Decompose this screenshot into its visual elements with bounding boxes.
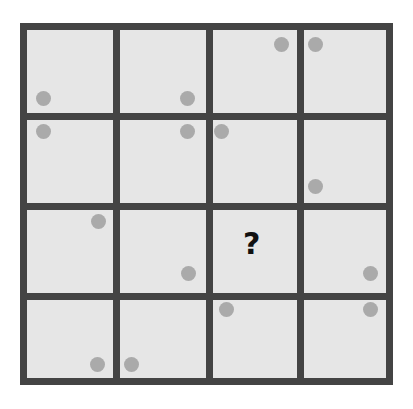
dot-icon <box>308 179 323 194</box>
cell-r0-c0[interactable] <box>27 30 113 113</box>
cell-r3-c2[interactable] <box>213 300 297 378</box>
dot-icon <box>36 91 51 106</box>
cell-r0-c3[interactable] <box>304 30 386 113</box>
cell-r3-c3[interactable] <box>304 300 386 378</box>
dot-icon <box>363 302 378 317</box>
cell-r0-c1[interactable] <box>120 30 206 113</box>
question-mark: ? <box>243 229 260 259</box>
dot-icon <box>90 357 105 372</box>
cell-r1-c0[interactable] <box>27 120 113 203</box>
cell-r2-c2-missing[interactable]: ? <box>213 210 297 293</box>
dot-icon <box>180 124 195 139</box>
dot-icon <box>219 302 234 317</box>
dot-icon <box>180 91 195 106</box>
cell-r1-c3[interactable] <box>304 120 386 203</box>
dot-icon <box>124 357 139 372</box>
dot-icon <box>214 124 229 139</box>
puzzle-grid: ? <box>20 23 393 385</box>
cell-r3-c1[interactable] <box>120 300 206 378</box>
cell-r2-c3[interactable] <box>304 210 386 293</box>
dot-icon <box>91 214 106 229</box>
cell-r3-c0[interactable] <box>27 300 113 378</box>
cell-r2-c0[interactable] <box>27 210 113 293</box>
dot-icon <box>274 37 289 52</box>
dot-icon <box>36 124 51 139</box>
dot-icon <box>181 266 196 281</box>
dot-icon <box>308 37 323 52</box>
dot-icon <box>363 266 378 281</box>
cell-r0-c2[interactable] <box>213 30 297 113</box>
cell-r1-c1[interactable] <box>120 120 206 203</box>
cell-r2-c1[interactable] <box>120 210 206 293</box>
cell-r1-c2[interactable] <box>213 120 297 203</box>
